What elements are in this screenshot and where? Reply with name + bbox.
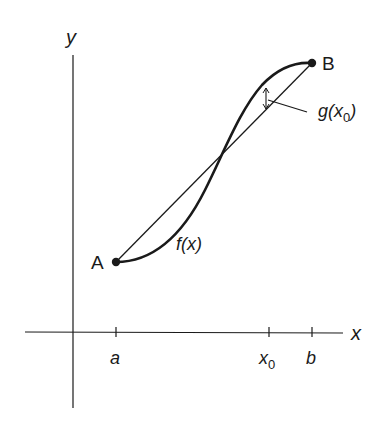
point-a-label: A xyxy=(91,252,104,273)
point-b-label: B xyxy=(322,53,335,74)
x-axis-label: x xyxy=(350,322,362,344)
y-axis-label: y xyxy=(64,26,77,48)
gap-leader-line xyxy=(268,100,307,112)
point-a-marker xyxy=(112,258,120,266)
tick-label-a: a xyxy=(110,348,120,368)
curve-label-f: f(x) xyxy=(176,234,202,254)
chord-ab xyxy=(116,63,312,262)
tick-label-x0: x0 xyxy=(258,348,275,372)
gap-label-g: g(x0) xyxy=(318,101,356,125)
tick-label-b: b xyxy=(306,348,316,368)
point-b-marker xyxy=(308,59,316,67)
diagram-canvas: y x a x0 b A B f(x) g(x0) xyxy=(0,0,387,421)
